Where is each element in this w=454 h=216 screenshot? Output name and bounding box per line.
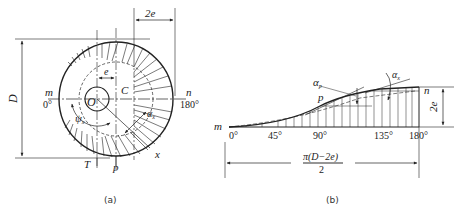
label-180deg: 180° [180,99,199,110]
figure-b-labels: m n p αp αx 2e 0° 45° 90° 135° 180° π(D−… [214,69,439,205]
label-2e-b: 2e [427,102,439,113]
tick-0: 0° [229,130,238,141]
label-D: D [6,94,20,104]
label-p-b: p [317,91,324,103]
label-alpha-p: αp [313,76,322,89]
spokes-upper [68,42,172,92]
cam-diagram: D 2e e O C m 0° n 180° ψx αx T p x (a) [0,0,454,216]
label-0deg: 0° [43,99,52,110]
tick-45: 45° [268,130,282,141]
label-T: T [84,158,91,170]
caption-b: (b) [326,195,339,205]
caption-a: (a) [104,195,117,205]
hatch-lines [246,87,412,127]
tangent-p [305,87,364,115]
alpha-x-arrow [125,112,146,133]
tick-90: 90° [313,130,327,141]
figure-a [15,8,186,170]
label-e: e [104,66,109,77]
label-length-denominator: 2 [319,164,324,175]
label-x: x [154,148,160,160]
label-C: C [121,84,129,96]
tick-135: 135° [374,130,393,141]
label-psi: ψx [75,112,85,125]
label-O: O [87,95,96,109]
tick-180: 180° [409,130,428,141]
label-n: n [186,86,192,98]
figure-a-labels: D 2e e O C m 0° n 180° ψx αx T p x (a) [6,7,199,205]
label-m-b: m [214,120,222,132]
label-p: p [112,161,119,173]
development-curve [229,87,419,127]
figure-b [225,73,454,178]
label-length-numerator: π(D−2e) [303,151,339,163]
label-m: m [45,86,53,98]
label-n-b: n [424,84,430,96]
label-alpha-x: αx [147,108,155,120]
label-2e: 2e [145,7,156,19]
label-alpha-x-b: αx [392,69,400,81]
